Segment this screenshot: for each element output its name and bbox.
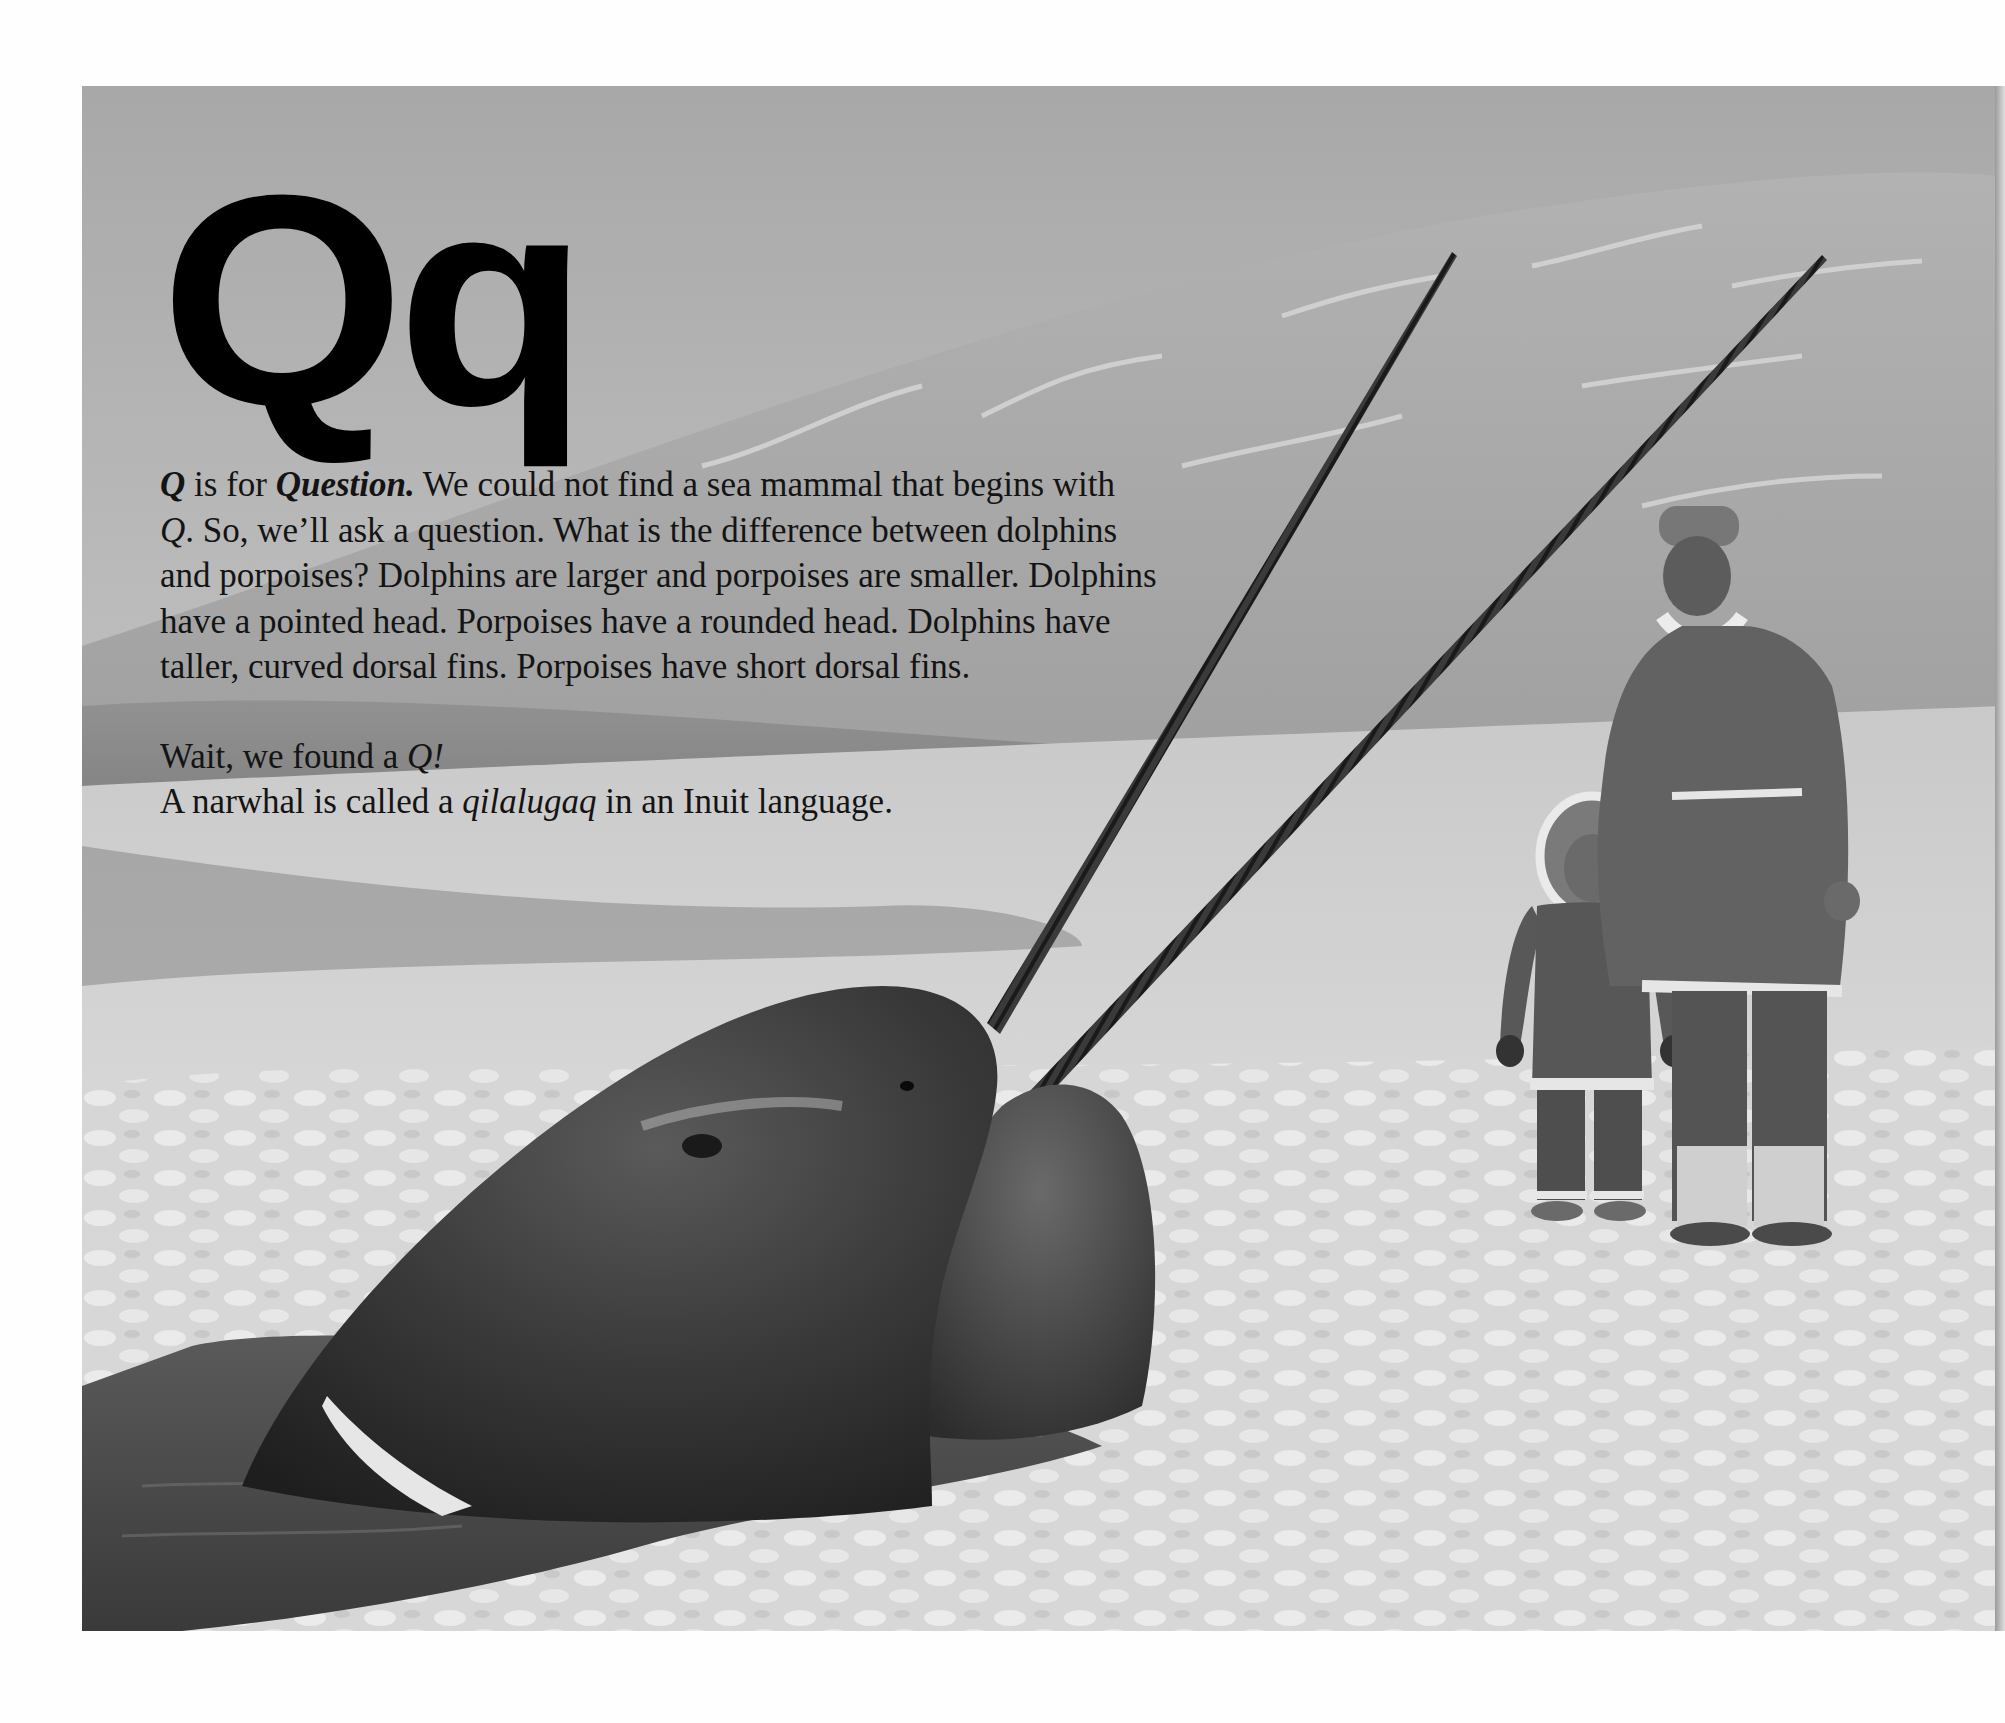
paragraph-found-q: Wait, we found a Q! A narwhal is called … (160, 734, 1260, 825)
q-italic: Q (160, 511, 185, 550)
keyword-question: Question. (276, 465, 415, 504)
paragraph-gap (160, 690, 1260, 734)
q-letter: Q (160, 465, 185, 504)
inuit-word: qilalugaq (462, 782, 596, 821)
page-letter-heading: Qq (160, 150, 581, 450)
line-4: have a pointed head. Porpoises have a ro… (160, 602, 1111, 641)
narwhal-line-prefix: A narwhal is called a (160, 782, 462, 821)
is-for: is for (185, 465, 275, 504)
line-5: taller, curved dorsal fins. Porpoises ha… (160, 647, 970, 686)
line-2: . So, we’ll ask a question. What is the … (185, 511, 1117, 550)
page-edge (1995, 86, 2005, 1631)
book-page: Qq Q is for Question. We could not find … (0, 0, 2005, 1723)
paragraph-question: Q is for Question. We could not find a s… (160, 462, 1260, 690)
found-line-prefix: Wait, we found a (160, 737, 407, 776)
found-q-italic: Q! (407, 737, 444, 776)
line-3: and porpoises? Dolphins are larger and p… (160, 556, 1157, 595)
page-text: Q is for Question. We could not find a s… (160, 462, 1260, 825)
line-1: We could not find a sea mammal that begi… (415, 465, 1115, 504)
narwhal-line-suffix: in an Inuit language. (596, 782, 892, 821)
